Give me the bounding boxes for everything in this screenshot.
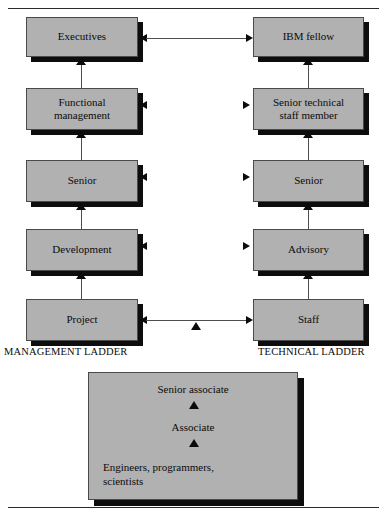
- base-arrow-entry-to-associate-icon: [189, 439, 199, 447]
- technical-box-senior[interactable]: Senior: [253, 160, 364, 202]
- management-box-functional-management[interactable]: Functional management: [26, 88, 138, 130]
- cross-link-head-development: [140, 242, 147, 250]
- technical-box-advisory-label: Advisory: [258, 243, 359, 256]
- cross-link-head-advisory: [243, 242, 250, 250]
- management-box-executives-label: Executives: [31, 30, 133, 43]
- management-box-functional-management-label: Functional management: [31, 96, 133, 123]
- bottom-divider-rule: [8, 507, 379, 508]
- management-arrow-project-to-development: [76, 272, 87, 299]
- management-arrow-senior-to-functional: [76, 131, 87, 160]
- technical-arrow-staff-to-advisory: [303, 272, 314, 299]
- management-arrow-functional-to-executives: [76, 58, 87, 88]
- technical-box-senior-technical-staff-member-label: Senior technical staff member: [258, 96, 359, 123]
- top-divider-rule: [8, 8, 379, 9]
- arrow-stem: [308, 208, 309, 229]
- arrow-stem: [308, 63, 309, 88]
- base-arrow-associate-to-senior-associate-icon: [189, 401, 199, 409]
- technical-box-ibm-fellow-label: IBM fellow: [258, 30, 359, 43]
- technical-arrow-senior-to-stsm: [303, 131, 314, 160]
- management-arrow-development-to-senior: [76, 203, 87, 229]
- arrow-line: [146, 320, 247, 321]
- technical-arrow-stsm-to-ibm-fellow: [303, 58, 314, 88]
- arrow-head-up-icon: [76, 203, 86, 210]
- arrow-head-right-icon: [246, 34, 253, 42]
- management-ladder-label: MANAGEMENT LADDER: [4, 346, 127, 357]
- arrow-head-up-icon: [76, 131, 86, 138]
- technical-box-staff-label: Staff: [258, 313, 359, 326]
- management-box-senior-label: Senior: [31, 174, 133, 187]
- arrow-stem: [308, 136, 309, 160]
- arrow-stem: [81, 208, 82, 229]
- arrow-line: [146, 38, 247, 39]
- management-box-project[interactable]: Project: [26, 299, 138, 341]
- technical-box-senior-label: Senior: [258, 174, 359, 187]
- technical-box-ibm-fellow[interactable]: IBM fellow: [253, 17, 364, 57]
- management-box-project-label: Project: [31, 313, 133, 326]
- base-level-entry-roles: Engineers, programmers, scientists: [103, 461, 287, 489]
- management-box-development-label: Development: [31, 243, 133, 256]
- arrow-stem: [81, 277, 82, 299]
- cross-link-head-technical-senior: [243, 173, 250, 181]
- base-level-senior-associate: Senior associate: [89, 383, 297, 395]
- technical-arrow-advisory-to-senior: [303, 203, 314, 229]
- cross-link-head-management-senior: [140, 173, 147, 181]
- cross-link-executives-ibm-fellow: [140, 34, 253, 43]
- entry-point-marker-icon: [191, 322, 201, 330]
- management-box-development[interactable]: Development: [26, 229, 138, 271]
- arrow-stem: [81, 136, 82, 160]
- arrow-head-up-icon: [76, 272, 86, 279]
- arrow-head-up-icon: [303, 58, 313, 65]
- management-box-senior[interactable]: Senior: [26, 160, 138, 202]
- management-box-executives[interactable]: Executives: [26, 17, 138, 57]
- base-level-associate: Associate: [89, 421, 297, 433]
- arrow-head-right-icon: [246, 316, 253, 324]
- career-ladder-diagram: Executives Functional management Senior …: [0, 0, 387, 524]
- entry-level-panel[interactable]: Senior associate Associate Engineers, pr…: [88, 372, 298, 500]
- technical-ladder-label: TECHNICAL LADDER: [258, 346, 365, 357]
- arrow-stem: [81, 63, 82, 88]
- cross-link-head-senior-technical-staff-member: [243, 101, 250, 109]
- technical-box-advisory[interactable]: Advisory: [253, 229, 364, 271]
- arrow-head-up-icon: [303, 131, 313, 138]
- technical-box-senior-technical-staff-member[interactable]: Senior technical staff member: [253, 88, 364, 130]
- arrow-head-up-icon: [76, 58, 86, 65]
- technical-box-staff[interactable]: Staff: [253, 299, 364, 341]
- arrow-stem: [308, 277, 309, 299]
- arrow-head-up-icon: [303, 272, 313, 279]
- arrow-head-up-icon: [303, 203, 313, 210]
- cross-link-head-functional-management: [140, 101, 147, 109]
